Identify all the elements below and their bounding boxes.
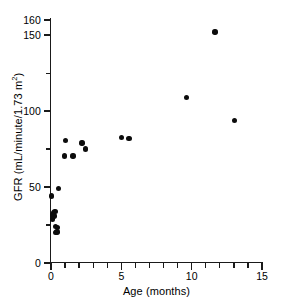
- y-axis-title: GFR (mL/minute/1.73 m2): [10, 37, 24, 237]
- y-axis-tick-major: [44, 34, 51, 35]
- x-axis-tick-minor: [205, 263, 206, 268]
- x-axis-tick-major: [50, 263, 51, 270]
- x-axis-tick-minor: [233, 263, 234, 268]
- data-point: [212, 29, 217, 34]
- y-axis-tick-major: [44, 110, 51, 111]
- y-axis-title-close: ): [12, 73, 24, 77]
- x-axis-tick-major: [191, 263, 192, 270]
- x-axis-tick-minor: [93, 263, 94, 268]
- x-axis-tick-minor: [247, 263, 248, 268]
- x-axis-tick-minor: [163, 263, 164, 268]
- data-point: [126, 136, 131, 141]
- data-point: [51, 213, 56, 218]
- y-axis-tick-label: 0: [1, 258, 41, 269]
- x-axis-tick-minor: [177, 263, 178, 268]
- x-axis-tick-major: [261, 263, 262, 270]
- x-axis-tick-minor: [135, 263, 136, 268]
- x-axis-tick-label: 10: [177, 271, 207, 282]
- y-axis-tick-minor: [46, 148, 51, 149]
- scatter-plot-figure: 050100150160 051015 Age (months) GFR (mL…: [0, 0, 285, 307]
- data-point: [83, 146, 88, 151]
- y-axis-tick-label: 160: [1, 15, 41, 26]
- data-point: [52, 209, 57, 214]
- x-axis-tick-minor: [219, 263, 220, 268]
- x-axis-tick-label: 0: [36, 271, 66, 282]
- y-axis-title-main: GFR (mL/minute/1.73 m: [12, 81, 24, 201]
- x-axis-tick-label: 15: [247, 271, 277, 282]
- y-axis-tick-major: [44, 186, 51, 187]
- x-axis-tick-minor: [149, 263, 150, 268]
- x-axis-tick-minor: [64, 263, 65, 268]
- y-axis-tick-major: [44, 19, 51, 20]
- data-point: [70, 153, 75, 158]
- data-point: [79, 140, 84, 145]
- y-axis-tick-minor: [46, 73, 51, 74]
- x-axis-tick-minor: [78, 263, 79, 268]
- x-axis-tick-label: 5: [106, 271, 136, 282]
- y-axis-title-superscript: 2: [10, 77, 19, 81]
- y-axis-tick-minor: [46, 224, 51, 225]
- x-axis-tick-minor: [107, 263, 108, 268]
- x-axis-title: Age (months): [51, 285, 262, 297]
- data-point: [62, 153, 67, 158]
- x-axis-tick-major: [121, 263, 122, 270]
